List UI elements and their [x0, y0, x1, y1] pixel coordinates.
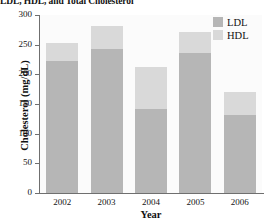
y-axis-tick-label: 250 [0, 40, 32, 49]
y-axis-tick-label: 0 [0, 188, 32, 197]
legend-label: LDL [227, 17, 247, 28]
y-axis-tick-label: 100 [0, 129, 32, 138]
x-axis-tick-label: 2003 [86, 197, 128, 207]
y-axis-tick-label: 200 [0, 69, 32, 78]
x-axis-tick-label: 2006 [219, 197, 261, 207]
bar-segment-hdl [91, 26, 123, 49]
legend-item: LDL [213, 16, 267, 28]
x-axis-tick-label: 2005 [174, 197, 216, 207]
y-axis-tick-label: 300 [0, 10, 32, 19]
x-axis-tick-label: 2004 [130, 197, 172, 207]
bar-segment-ldl [135, 109, 167, 193]
chart-title: LDL, HDL, and Total Cholesterol [0, 0, 271, 7]
y-axis-tick-mark [35, 193, 40, 194]
legend-item: HDL [213, 29, 267, 41]
y-axis-tick-mark [35, 45, 40, 46]
bar-segment-ldl [46, 61, 78, 193]
x-axis-title: Year [40, 209, 262, 220]
bar-segment-ldl [179, 53, 211, 193]
bar-group [135, 15, 167, 193]
bar-segment-hdl [224, 92, 256, 116]
bar-segment-hdl [135, 67, 167, 109]
chart-figure: LDL, HDL, and Total Cholesterol Choleste… [0, 0, 271, 224]
legend-swatch-ldl [213, 17, 223, 27]
bar-segment-ldl [224, 115, 256, 193]
y-axis-tick-mark [35, 74, 40, 75]
bar-group [91, 15, 123, 193]
y-axis-tick-label: 150 [0, 99, 32, 108]
bar-segment-ldl [91, 49, 123, 193]
x-axis-tick-label: 2002 [41, 197, 83, 207]
bar-group [46, 15, 78, 193]
bar-segment-hdl [179, 32, 211, 53]
legend-label: HDL [227, 30, 249, 41]
bar-segment-hdl [46, 43, 78, 61]
legend-swatch-hdl [213, 30, 223, 40]
y-axis-tick-mark [35, 163, 40, 164]
y-axis-tick-label: 50 [0, 158, 32, 167]
chart-legend: LDLHDL [213, 16, 267, 42]
x-axis-line [39, 193, 264, 194]
y-axis-tick-mark [35, 15, 40, 16]
bar-group [179, 15, 211, 193]
y-axis-tick-mark [35, 134, 40, 135]
y-axis-tick-mark [35, 104, 40, 105]
